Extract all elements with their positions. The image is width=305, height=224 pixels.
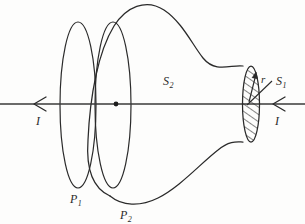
label-surface-s1: S1 <box>276 72 286 90</box>
cross-section-p2 <box>95 22 131 188</box>
label-p2-sub: 2 <box>128 215 132 224</box>
figure-canvas: S2 S1 r P1 P2 I I <box>0 0 305 224</box>
label-I-right-base: I <box>275 114 279 128</box>
label-plane-p2: P2 <box>120 206 132 224</box>
label-p1-base: P <box>70 192 78 206</box>
label-p2-base: P <box>120 208 128 222</box>
label-p1-sub: 1 <box>78 199 82 208</box>
label-current-right: I <box>275 112 279 128</box>
label-s1-sub: 1 <box>282 81 286 90</box>
label-plane-p1: P1 <box>70 190 82 208</box>
label-current-left: I <box>36 112 40 128</box>
axis-center-dot <box>114 102 119 107</box>
diagram-svg <box>0 0 305 224</box>
label-I-left-base: I <box>36 114 40 128</box>
label-surface-s2: S2 <box>163 72 173 90</box>
label-radius-r: r <box>261 70 265 86</box>
label-r-base: r <box>261 73 265 85</box>
label-s2-sub: 2 <box>169 81 173 90</box>
